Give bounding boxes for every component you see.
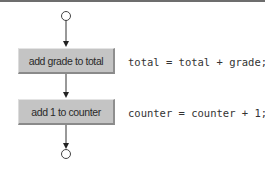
code-statement-total: total = total + grade;	[128, 56, 265, 68]
action-label: add grade to total	[29, 55, 104, 67]
initial-state-circle-icon	[62, 12, 71, 21]
arrowhead-icon	[63, 92, 69, 98]
code-statement-counter: counter = counter + 1;	[128, 107, 265, 119]
arrowhead-icon	[63, 143, 69, 149]
final-state-circle-icon	[62, 150, 71, 159]
action-state-add-counter: add 1 to counter	[18, 99, 115, 125]
action-state-add-grade: add grade to total	[18, 48, 115, 74]
arrowhead-icon	[63, 41, 69, 47]
flow-connectors	[0, 0, 265, 170]
action-label: add 1 to counter	[31, 106, 101, 118]
